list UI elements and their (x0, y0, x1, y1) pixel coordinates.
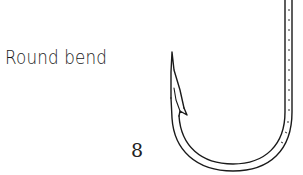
hook-barb-inner (174, 88, 180, 111)
round-bend-hook-drawing (0, 0, 303, 175)
hook-inner-contour (179, 0, 285, 164)
hook-barb (179, 108, 187, 116)
hook-point (171, 52, 184, 108)
